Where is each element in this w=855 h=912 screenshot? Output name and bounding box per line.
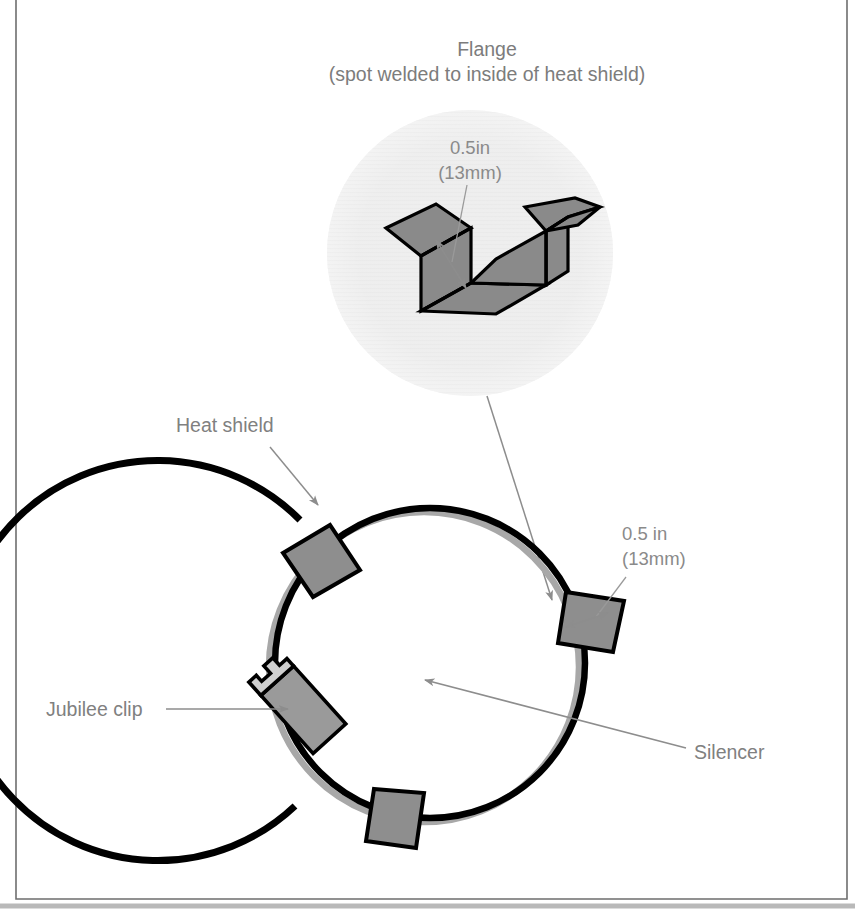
detail-title-flange: Flange — [457, 38, 517, 60]
flange-detail-callout: 0.5in (13mm) — [327, 110, 613, 396]
label-silencer: Silencer — [694, 741, 765, 763]
detail-dimension-mm: (13mm) — [438, 162, 502, 183]
label-jubilee-clip: Jubilee clip — [46, 698, 143, 720]
detail-dimension-inches: 0.5in — [450, 137, 490, 158]
detail-title-subtext: (spot welded to inside of heat shield) — [329, 63, 646, 85]
assembly-dimension-mm: (13mm) — [622, 548, 686, 569]
label-heat-shield: Heat shield — [176, 414, 274, 436]
flange-block-right — [558, 592, 624, 652]
diagram-canvas: 0.5in (13mm) Flange (spot welded to insi… — [0, 0, 855, 912]
exhaust-silencer-diagram: 0.5in (13mm) Flange (spot welded to insi… — [0, 0, 855, 912]
flange-block-bottom — [366, 789, 424, 848]
assembly-dimension-inches: 0.5 in — [622, 523, 667, 544]
